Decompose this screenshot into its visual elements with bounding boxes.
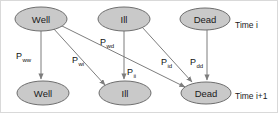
node-label-well-bottom: Well (34, 88, 52, 99)
edge-label-pii-base: P (127, 67, 133, 77)
edge-label-pww-base: P (16, 51, 22, 61)
state-transition-diagram: P ww P wi P wd P ii P id P dd (1, 1, 278, 113)
node-label-dead-bottom: Dead (195, 88, 218, 99)
diagram-frame: P ww P wi P wd P ii P id P dd (0, 0, 278, 113)
node-ill-time-i-plus-1[interactable]: Ill (99, 81, 151, 105)
edge-label-pww-sub: ww (22, 57, 32, 63)
edge-label-pwi: P wi (72, 55, 84, 67)
edge-group (41, 24, 207, 87)
edge-label-pii-sub: ii (134, 73, 137, 79)
edge-label-group: P ww P wi P wd P ii P id P dd (16, 37, 203, 79)
edge-label-pid-sub: id (168, 63, 173, 69)
edge-label-pdd: P dd (190, 57, 203, 69)
time-label-top: Time i (235, 20, 258, 30)
edge-label-pwd-base: P (100, 37, 106, 47)
node-label-well-top: Well (32, 14, 50, 25)
edge-label-pdd-base: P (190, 57, 196, 67)
edge-label-pdd-sub: dd (197, 63, 204, 69)
edge-label-pwi-sub: wi (78, 61, 85, 67)
edge-label-pwd-sub: wd (106, 43, 115, 49)
node-well-time-i[interactable]: Well (15, 7, 67, 31)
time-label-group: Time i Time i+1 (235, 20, 268, 101)
edge-label-pii: P ii (127, 67, 136, 79)
edge-well-to-ill (53, 28, 105, 85)
edge-label-pid-base: P (161, 57, 167, 67)
node-well-time-i-plus-1[interactable]: Well (17, 81, 69, 105)
node-ill-time-i[interactable]: Ill (98, 7, 150, 31)
edge-label-pww: P ww (16, 51, 32, 63)
node-dead-time-i[interactable]: Dead (180, 8, 230, 30)
edge-label-pwd: P wd (100, 37, 114, 49)
node-label-ill-top: Ill (121, 14, 128, 25)
node-label-dead-top: Dead (194, 14, 217, 25)
edge-ill-to-dead (142, 27, 192, 82)
node-label-ill-bottom: Ill (122, 88, 129, 99)
node-dead-time-i-plus-1[interactable]: Dead (181, 82, 231, 104)
time-label-bottom: Time i+1 (235, 91, 268, 101)
edge-label-pwi-base: P (72, 55, 78, 65)
